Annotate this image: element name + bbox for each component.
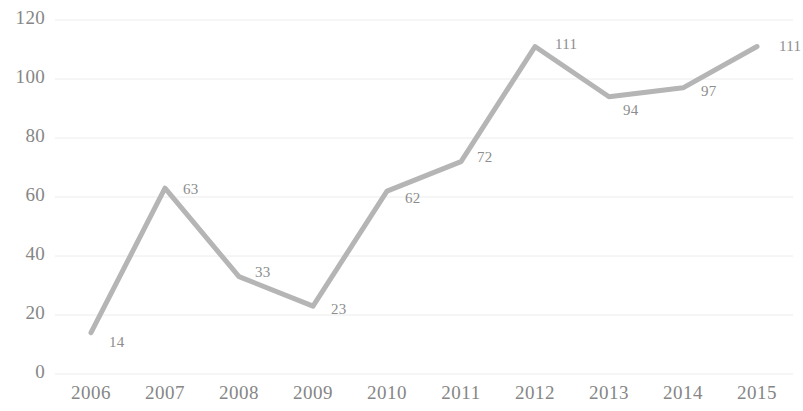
gridlines <box>55 20 793 374</box>
data-point-label: 94 <box>623 102 639 119</box>
y-axis-tick-label: 60 <box>0 184 45 206</box>
data-point-label: 23 <box>331 301 347 318</box>
y-axis-tick-label: 120 <box>0 7 45 29</box>
line-chart: 020406080100120 200620072008200920102011… <box>0 0 803 411</box>
data-point-label: 63 <box>183 181 199 198</box>
data-point-label: 62 <box>405 190 421 207</box>
y-axis-tick-label: 100 <box>0 66 45 88</box>
data-point-label: 97 <box>701 83 717 100</box>
y-axis-tick-label: 0 <box>0 361 45 383</box>
x-axis-tick-label: 2015 <box>712 382 802 404</box>
data-point-label: 33 <box>255 264 271 281</box>
y-axis-tick-label: 80 <box>0 125 45 147</box>
data-point-label: 14 <box>109 334 125 351</box>
data-point-label: 111 <box>555 36 577 53</box>
y-axis-tick-label: 20 <box>0 302 45 324</box>
data-point-label: 111 <box>779 38 801 55</box>
data-point-label: 72 <box>477 149 493 166</box>
y-axis-tick-label: 40 <box>0 243 45 265</box>
